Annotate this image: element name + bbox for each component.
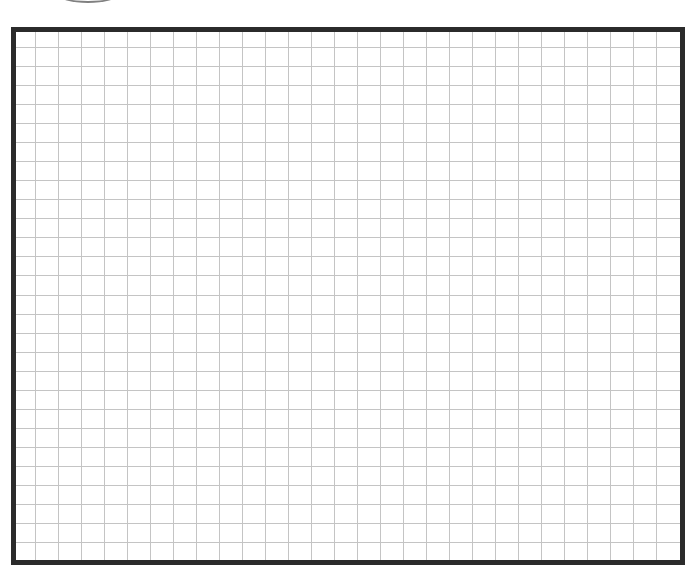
- grid-sheet-frame: [11, 27, 685, 565]
- grid-pattern: [16, 32, 680, 560]
- grid-lines: [16, 32, 680, 560]
- top-arc-icon: [58, 0, 118, 3]
